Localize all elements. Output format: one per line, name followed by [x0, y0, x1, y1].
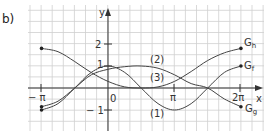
tick-label-y1: 1 — [97, 59, 103, 70]
endpoint-dot — [239, 64, 243, 68]
function-graph: y x − π 0 π 2π 2 1 − 1 (1) (2) (3) Gh Gf… — [0, 0, 271, 136]
tick-label-2pi: 2π — [232, 92, 244, 103]
grid — [28, 5, 264, 131]
tick-label-y2: 2 — [95, 39, 101, 50]
endpoint-dot — [40, 105, 44, 109]
tick-label-pi: π — [170, 92, 176, 103]
curve-label-3: (3) — [150, 72, 164, 83]
tick-label-yneg1: − 1 — [86, 105, 104, 116]
curve-label-2: (2) — [150, 54, 164, 65]
endpoint-dot — [40, 108, 44, 112]
y-axis-label: y — [99, 7, 105, 18]
tick-label-zero: 0 — [110, 93, 116, 104]
label-Gg: Gg — [245, 103, 257, 116]
curve-label-1: (1) — [150, 108, 164, 119]
endpoint-dot — [239, 47, 243, 51]
label-Gf: Gf — [244, 60, 255, 73]
endpoint-dot — [40, 47, 44, 51]
label-Gh: Gh — [244, 37, 256, 50]
y-axis-arrow-icon — [105, 8, 111, 16]
x-axis-label: x — [256, 93, 262, 104]
x-axis-arrow-icon — [255, 85, 263, 91]
tick-label-neg-pi: − π — [28, 92, 46, 103]
endpoint-dot — [239, 105, 243, 109]
